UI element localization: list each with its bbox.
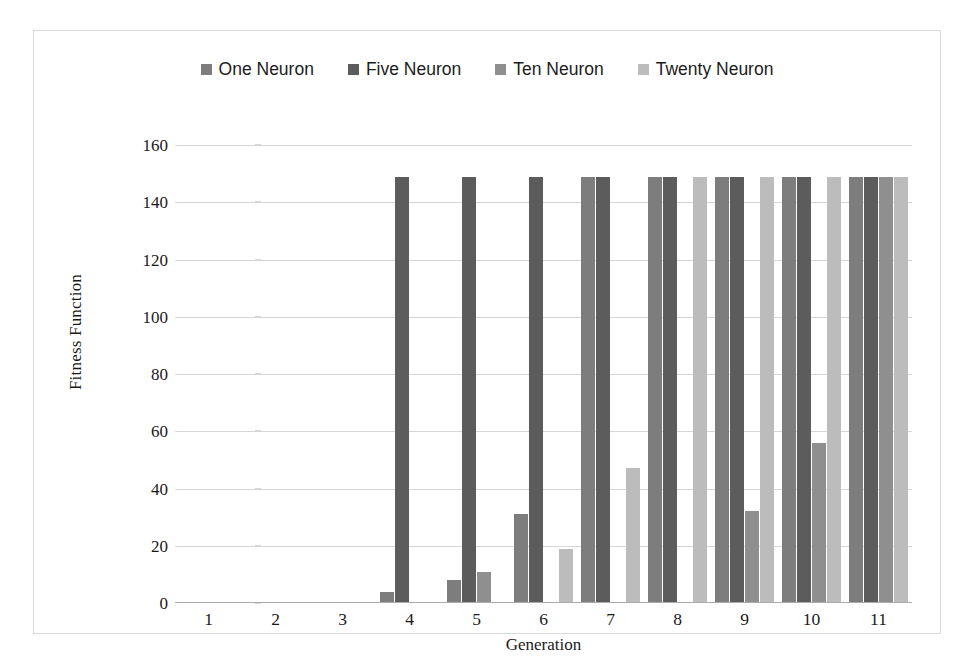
legend-label: Five Neuron [366, 59, 461, 80]
bar [596, 177, 610, 604]
x-tick-label: 6 [539, 609, 548, 630]
bar [745, 511, 759, 603]
bar [648, 177, 662, 604]
x-tick-label: 11 [870, 609, 887, 630]
bar [514, 514, 528, 603]
bar [395, 177, 409, 604]
x-axis-title: Generation [175, 635, 912, 655]
y-tick-label: 80 [151, 366, 168, 383]
bar-group [510, 145, 577, 603]
legend-swatch-icon [201, 64, 212, 75]
y-tick-label: 40 [151, 480, 168, 497]
bar [529, 177, 543, 604]
x-tick-label: 3 [338, 609, 347, 630]
y-tick-label: 140 [143, 194, 169, 211]
bar [864, 177, 878, 604]
bar [730, 177, 744, 604]
bar [559, 549, 573, 603]
bar [849, 177, 863, 604]
legend-swatch-icon [638, 64, 649, 75]
bar-group [711, 145, 778, 603]
y-tick-label: 60 [151, 423, 168, 440]
x-axis-tick-labels: 1234567891011 [175, 609, 912, 635]
bar [894, 177, 908, 604]
bar [827, 177, 841, 604]
y-axis-tick-labels: 020406080100120140160 [120, 145, 168, 603]
y-axis-title: Fitness Function [66, 274, 86, 390]
legend-item-ten-neuron: Ten Neuron [495, 59, 603, 80]
bar [760, 177, 774, 604]
bar [715, 177, 729, 604]
bar [626, 468, 640, 603]
legend-label: Twenty Neuron [656, 59, 774, 80]
x-axis-line [175, 602, 912, 603]
bar-group [644, 145, 711, 603]
y-tick-label: 0 [160, 595, 169, 612]
x-tick-label: 4 [405, 609, 414, 630]
bar [693, 177, 707, 604]
legend-swatch-icon [348, 64, 359, 75]
bar-group [845, 145, 912, 603]
y-tick-label: 100 [143, 308, 169, 325]
chart-legend: One NeuronFive NeuronTen NeuronTwenty Ne… [34, 59, 940, 80]
x-tick-label: 1 [204, 609, 213, 630]
bar [782, 177, 796, 604]
bar-group [309, 145, 376, 603]
legend-swatch-icon [495, 64, 506, 75]
legend-label: Ten Neuron [513, 59, 603, 80]
bar [663, 177, 677, 604]
bar-group [175, 145, 242, 603]
x-tick-label: 10 [803, 609, 821, 630]
bar [447, 580, 461, 603]
bar-group [242, 145, 309, 603]
chart-figure: One NeuronFive NeuronTen NeuronTwenty Ne… [33, 30, 941, 634]
legend-item-one-neuron: One Neuron [201, 59, 314, 80]
x-tick-label: 9 [740, 609, 749, 630]
bar [581, 177, 595, 604]
legend-item-five-neuron: Five Neuron [348, 59, 461, 80]
y-tick-label: 20 [151, 537, 168, 554]
y-tick-label: 120 [143, 251, 169, 268]
legend-label: One Neuron [219, 59, 314, 80]
bar-group [443, 145, 510, 603]
x-tick-label: 8 [673, 609, 682, 630]
bar [462, 177, 476, 604]
bar [879, 177, 893, 604]
bar [797, 177, 811, 604]
plot-area [175, 145, 912, 603]
x-tick-label: 5 [472, 609, 481, 630]
bar-group [376, 145, 443, 603]
bar [477, 572, 491, 603]
bar-group [577, 145, 644, 603]
legend-item-twenty-neuron: Twenty Neuron [638, 59, 774, 80]
y-tick-label: 160 [143, 137, 169, 154]
x-tick-label: 2 [271, 609, 280, 630]
x-tick-label: 7 [606, 609, 615, 630]
bar [812, 443, 826, 603]
bar-group [778, 145, 845, 603]
